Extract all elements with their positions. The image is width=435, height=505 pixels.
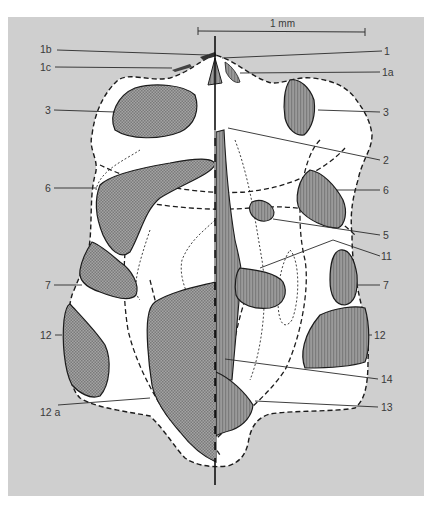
anatomical-diagram: 1 mm xyxy=(0,0,435,505)
region-7-right xyxy=(330,250,357,305)
label-1a: 1a xyxy=(382,66,394,78)
label-7-right: 7 xyxy=(383,279,389,291)
label-6-left: 6 xyxy=(45,182,51,194)
scale-bar: 1 mm xyxy=(198,18,365,36)
label-1b: 1b xyxy=(40,43,52,55)
label-12a: 12 a xyxy=(40,406,61,418)
label-3-left: 3 xyxy=(45,104,51,116)
label-7-left: 7 xyxy=(45,279,51,291)
label-12-left: 12 xyxy=(40,329,52,341)
label-12-right: 12 xyxy=(374,329,386,341)
label-13: 13 xyxy=(381,401,393,413)
label-6-right: 6 xyxy=(383,184,389,196)
region-12a-large xyxy=(147,282,216,462)
label-3-right: 3 xyxy=(383,106,389,118)
label-11: 11 xyxy=(381,250,392,262)
scale-bar-label: 1 mm xyxy=(270,18,295,29)
label-1: 1 xyxy=(384,45,390,57)
label-5: 5 xyxy=(383,229,389,241)
label-14: 14 xyxy=(381,373,393,385)
label-2: 2 xyxy=(383,154,389,166)
label-1c: 1c xyxy=(40,61,51,73)
